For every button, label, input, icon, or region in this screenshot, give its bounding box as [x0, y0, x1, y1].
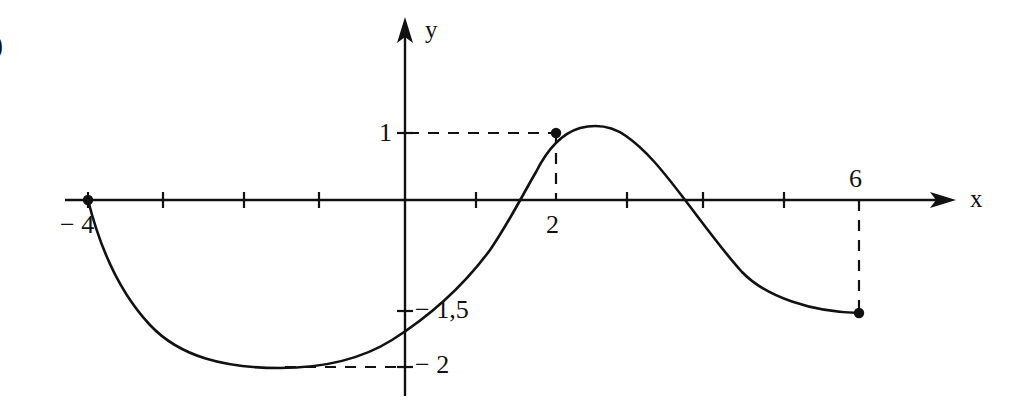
marked-point-minus4	[83, 195, 93, 205]
x-tick-label-2: 2	[546, 212, 559, 238]
x-tick-label-minus4: − 4	[60, 212, 94, 238]
y-axis-label: y	[425, 17, 438, 42]
y-tick-label-minus2: − 2	[415, 352, 449, 378]
x-tick-label-6: 6	[849, 166, 862, 192]
marked-point-6	[854, 308, 864, 318]
panel-label: )	[0, 32, 3, 59]
y-tick-label-minus1-5: − 1,5	[415, 297, 469, 323]
function-graph-figure: ) y x − 4 2 6 1 − 1,5 − 2	[0, 0, 1023, 411]
x-axis-label: x	[970, 186, 983, 211]
function-curve	[88, 126, 859, 368]
marked-point-2-1	[551, 128, 561, 138]
y-tick-label-1: 1	[379, 120, 392, 146]
graph-canvas	[0, 0, 1023, 411]
